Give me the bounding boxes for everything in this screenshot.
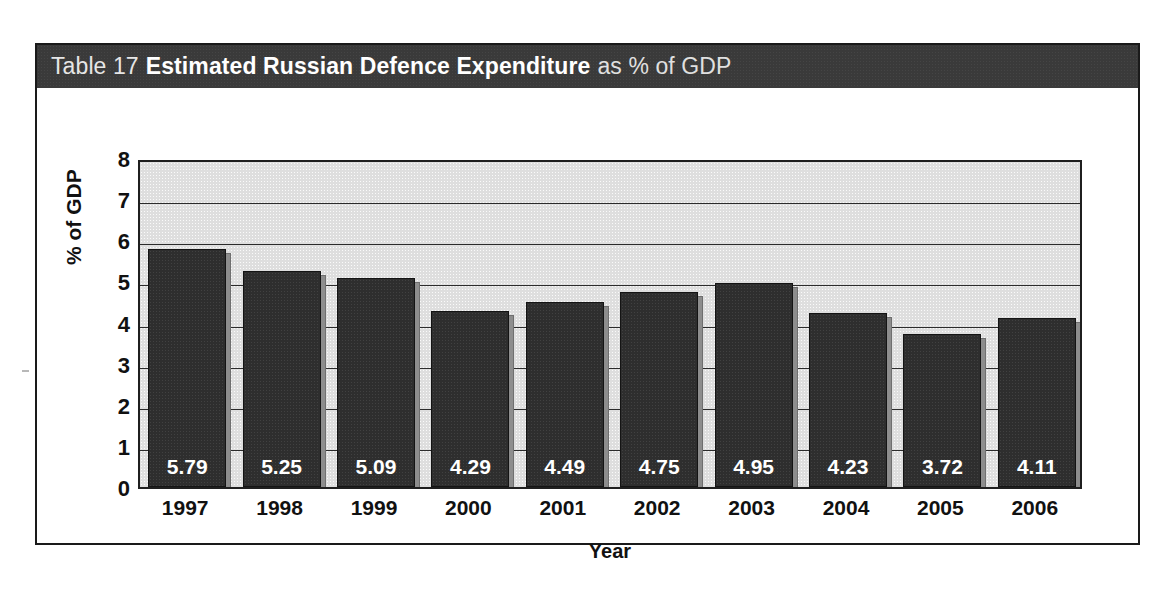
figure-title-band: Table 17 Estimated Russian Defence Expen… — [37, 45, 1138, 88]
y-axis-tick-label: 4 — [96, 314, 130, 336]
figure-title-subtitle: as % of GDP — [597, 53, 731, 80]
bar-value-label: 4.29 — [431, 455, 509, 479]
bar-value-label: 4.23 — [809, 455, 887, 479]
table-number-label: Table 17 — [51, 53, 139, 80]
bar-group[interactable]: 4.23 — [809, 162, 887, 487]
bar-group[interactable]: 5.25 — [243, 162, 321, 487]
x-axis-tick-label: 1998 — [232, 496, 326, 520]
bar-group[interactable]: 5.09 — [337, 162, 415, 487]
bar-value-label: 5.25 — [243, 455, 321, 479]
bar-group[interactable]: 4.29 — [431, 162, 509, 487]
x-axis-tick-label: 1997 — [138, 496, 232, 520]
x-axis-tick-label: 2006 — [988, 496, 1082, 520]
bar-value-label: 5.79 — [148, 455, 226, 479]
y-axis-tick-label: 5 — [96, 272, 130, 294]
x-axis-tick-label: 2001 — [516, 496, 610, 520]
y-axis-tick-label: 7 — [96, 190, 130, 212]
y-axis-tick-label: 3 — [96, 355, 130, 377]
scan-artifact-mark — [22, 370, 29, 372]
bar-group[interactable]: 3.72 — [903, 162, 981, 487]
bar-group[interactable]: 4.11 — [998, 162, 1076, 487]
bar-group[interactable]: 4.49 — [526, 162, 604, 487]
y-axis-title: % of GDP — [62, 235, 86, 265]
x-axis-tick-label: 1999 — [327, 496, 421, 520]
y-axis-tick-label: 8 — [96, 149, 130, 171]
bar-value-label: 4.11 — [998, 455, 1076, 479]
x-axis-tick-label: 2004 — [799, 496, 893, 520]
x-axis-tick-labels: 1997199819992000200120022003200420052006 — [138, 496, 1082, 526]
y-axis-tick-label: 6 — [96, 231, 130, 253]
x-axis-tick-label: 2000 — [421, 496, 515, 520]
y-axis-tick-label: 2 — [96, 396, 130, 418]
y-axis-tick-label: 1 — [96, 437, 130, 459]
bar-value-label: 4.75 — [620, 455, 698, 479]
y-axis-tick-label: 0 — [96, 478, 130, 500]
y-axis-tick-labels: 012345678 — [92, 160, 130, 489]
figure-frame: Table 17 Estimated Russian Defence Expen… — [35, 43, 1140, 545]
bar-value-label: 3.72 — [903, 455, 981, 479]
x-axis-tick-label: 2005 — [893, 496, 987, 520]
bar-value-label: 5.09 — [337, 455, 415, 479]
chart-body: % of GDP 012345678 5.795.255.094.294.494… — [37, 88, 1138, 543]
bar-group[interactable]: 4.75 — [620, 162, 698, 487]
bar-group[interactable]: 4.95 — [715, 162, 793, 487]
x-axis-tick-label: 2003 — [704, 496, 798, 520]
bar-value-label: 4.95 — [715, 455, 793, 479]
bar-group[interactable]: 5.79 — [148, 162, 226, 487]
x-axis-tick-label: 2002 — [610, 496, 704, 520]
bar-value-label: 4.49 — [526, 455, 604, 479]
x-axis-title: Year — [138, 540, 1082, 563]
figure-title-main: Estimated Russian Defence Expenditure — [146, 53, 591, 80]
bar[interactable] — [148, 249, 226, 487]
plot-area: 5.795.255.094.294.494.754.954.233.724.11 — [138, 160, 1082, 489]
